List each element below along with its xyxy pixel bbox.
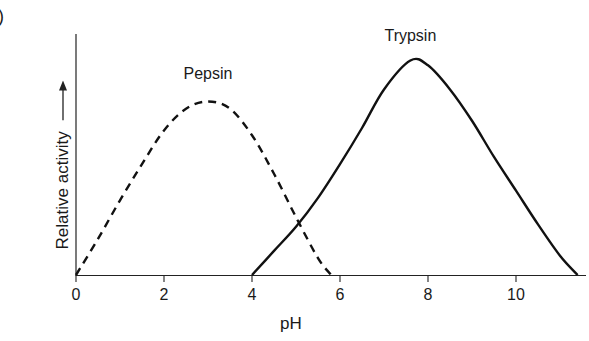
- series-layer: [76, 59, 578, 275]
- trypsin-label: Trypsin: [384, 27, 436, 45]
- x-tick-label: 6: [336, 286, 345, 304]
- x-tick-label: 4: [248, 286, 257, 304]
- y-axis-label: Relative activity: [53, 81, 73, 250]
- pepsin-curve: [76, 101, 331, 275]
- pepsin-label: Pepsin: [184, 65, 233, 83]
- y-axis-label-text: Relative activity: [53, 131, 72, 249]
- x-axis-label: pH: [280, 314, 302, 334]
- arrow-up-icon: [53, 81, 73, 121]
- x-axis: [76, 275, 586, 282]
- x-tick-label: 0: [72, 286, 81, 304]
- chart-canvas: [0, 0, 589, 341]
- x-tick-label: 10: [507, 286, 525, 304]
- trypsin-curve: [252, 59, 578, 275]
- x-tick-label: 8: [424, 286, 433, 304]
- x-tick-label: 2: [160, 286, 169, 304]
